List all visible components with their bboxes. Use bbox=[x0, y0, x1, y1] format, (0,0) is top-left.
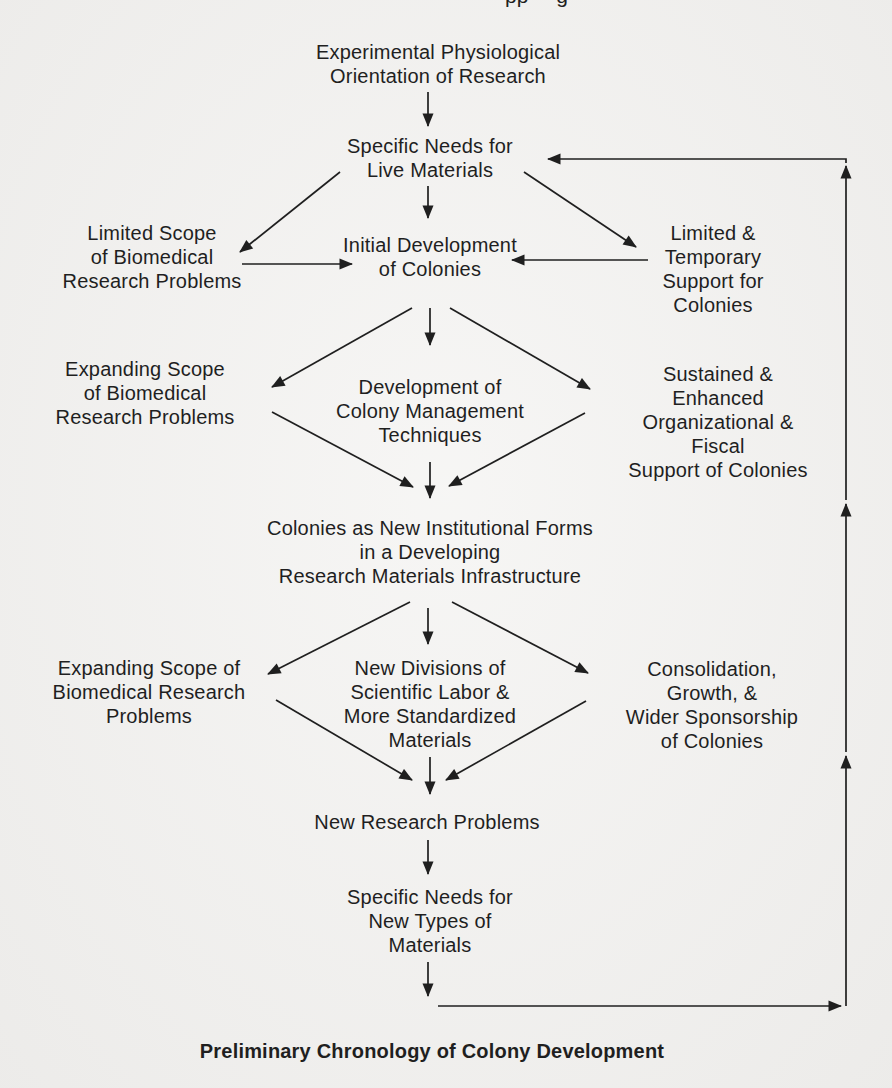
node-new-research-problems: New Research Problems bbox=[307, 810, 547, 834]
node-consolidation: Consolidation, Growth, & Wider Sponsorsh… bbox=[597, 657, 827, 753]
feedback-loop-top-segment bbox=[548, 159, 846, 163]
node-sustained-support: Sustained & Enhanced Organizational & Fi… bbox=[598, 362, 838, 482]
node-colony-management: Development of Colony Management Techniq… bbox=[315, 375, 545, 447]
node-limited-scope: Limited Scope of Biomedical Research Pro… bbox=[37, 221, 267, 293]
node-limited-temporary-support: Limited & Temporary Support for Colonies bbox=[613, 221, 813, 317]
node-initial-development: Initial Development of Colonies bbox=[320, 233, 540, 281]
node-specific-needs-new: Specific Needs for New Types of Material… bbox=[330, 885, 530, 957]
node-expanding-scope-1: Expanding Scope of Biomedical Research P… bbox=[30, 357, 260, 429]
node-new-divisions: New Divisions of Scientific Labor & More… bbox=[330, 656, 530, 752]
node-experimental-orientation: Experimental Physiological Orientation o… bbox=[258, 40, 618, 88]
node-colonies-institutional: Colonies as New Institutional Forms in a… bbox=[250, 516, 610, 588]
figure-caption: Preliminary Chronology of Colony Develop… bbox=[182, 1040, 682, 1063]
scanned-page: pp g Experimental Phys bbox=[0, 0, 892, 1088]
node-specific-needs-live: Specific Needs for Live Materials bbox=[320, 134, 540, 182]
node-expanding-scope-2: Expanding Scope of Biomedical Research P… bbox=[34, 656, 264, 728]
